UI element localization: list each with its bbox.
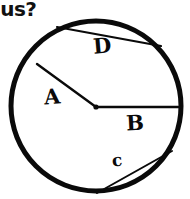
circle-radius-figure: dius? A B c D — [0, 0, 190, 199]
chord-c — [97, 151, 172, 193]
segment-label-c: c — [111, 152, 123, 170]
segment-label-a: A — [43, 85, 61, 107]
segment-label-d: D — [92, 34, 112, 57]
circle-diagram-svg — [0, 0, 190, 199]
segment-label-b: B — [125, 112, 144, 134]
circle-center-dot — [93, 104, 98, 109]
